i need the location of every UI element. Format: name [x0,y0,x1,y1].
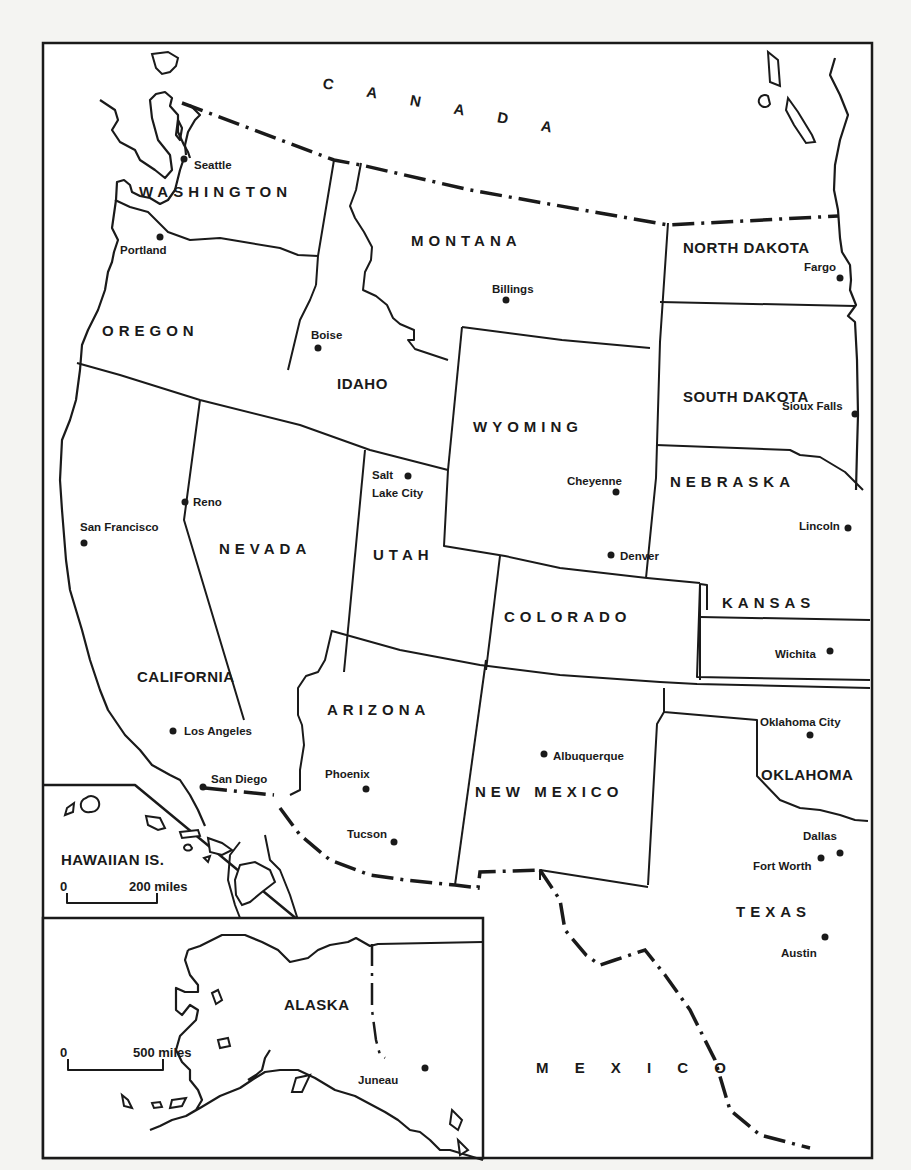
city-dot-fort-worth [818,855,825,862]
hawaii-island-kauai [81,796,99,812]
label-cheyenne: Cheyenne [567,475,622,487]
alaska-inset-frame [43,918,483,1158]
label-los-angeles: Los Angeles [184,725,252,737]
label-colorado: COLORADO [504,608,632,625]
label-portland: Portland [120,244,167,256]
label-fort-worth: Fort Worth [753,860,812,872]
hawaii-island-molokai [180,830,200,838]
label-utah: UTAH [373,546,434,563]
label-montana: MONTANA [411,232,522,249]
label-texas: TEXAS [736,903,811,920]
city-dot-lincoln [845,525,852,532]
label-oklahoma: OKLAHOMA [761,766,853,783]
label-nevada: NEVADA [219,540,311,557]
label-wichita: Wichita [775,648,816,660]
label-wyoming: WYOMING [473,418,583,435]
label-san-diego: San Diego [211,773,267,785]
label-phoenix: Phoenix [325,768,370,780]
label-austin: Austin [781,947,817,959]
city-dot-oklahoma-city [807,732,814,739]
city-dot-portland [157,234,164,241]
city-dot-reno [182,499,189,506]
city-dot-austin [822,934,829,941]
label-dallas: Dallas [803,830,837,842]
alaska-island-nunivak [218,1038,230,1048]
city-dot-seattle [181,156,188,163]
alaska-scale-zero: 0 [60,1045,67,1060]
city-dot-juneau [422,1065,429,1072]
label-kansas: KANSAS [722,594,815,611]
city-dot-albuquerque [541,751,548,758]
city-dot-tucson [391,839,398,846]
label-billings: Billings [492,283,534,295]
city-dot-fargo [837,275,844,282]
label-nebraska: NEBRASKA [670,473,795,490]
city-dot-phoenix [363,786,370,793]
hawaii-island-lanai [184,845,192,851]
city-dot-dallas [837,850,844,857]
lake-island-3 [759,95,770,107]
city-dot-billings [503,297,510,304]
city-dot-wichita [827,648,834,655]
label-sioux-falls: Sioux Falls [782,400,843,412]
label-arizona: ARIZONA [327,701,430,718]
city-dot-salt-lake-city [405,473,412,480]
label-san-francisco: San Francisco [80,521,159,533]
hawaii-scale-zero: 0 [60,879,67,894]
alaska-island-aleutian-2 [152,1102,162,1108]
label-north-dakota: NORTH DAKOTA [683,239,810,256]
alaska-scale-distance: 500 miles [133,1045,192,1060]
city-dot-san-francisco [81,540,88,547]
label-new-mexico: NEW MEXICO [475,783,623,800]
city-dot-los-angeles [170,728,177,735]
label-mexico: M E X I C O [536,1059,737,1076]
label-albuquerque: Albuquerque [553,750,624,762]
label-boise: Boise [311,329,342,341]
city-dot-cheyenne [613,489,620,496]
western-us-map: C A N A D A M E X I C O WASHINGTON OREGO… [0,0,911,1170]
label-juneau: Juneau [358,1074,398,1086]
label-oregon: OREGON [102,322,199,339]
label-salt-lake-city-2: Lake City [372,487,424,499]
label-lincoln: Lincoln [799,520,840,532]
label-idaho: IDAHO [337,375,388,392]
city-dot-san-diego [200,784,207,791]
label-tucson: Tucson [347,828,387,840]
city-dot-boise [315,345,322,352]
hawaii-scale-distance: 200 miles [129,879,188,894]
label-fargo: Fargo [804,261,836,273]
label-alaska: ALASKA [284,996,350,1013]
city-dot-denver [608,552,615,559]
label-reno: Reno [193,496,222,508]
label-seattle: Seattle [194,159,232,171]
label-washington: WASHINGTON [139,183,292,200]
label-california: CALIFORNIA [137,668,235,685]
label-oklahoma-city: Oklahoma City [760,716,841,728]
label-denver: Denver [620,550,660,562]
city-dot-sioux-falls [852,411,859,418]
label-salt-lake-city-1: Salt [372,469,393,481]
label-hawaiian-islands: HAWAIIAN IS. [61,851,165,868]
